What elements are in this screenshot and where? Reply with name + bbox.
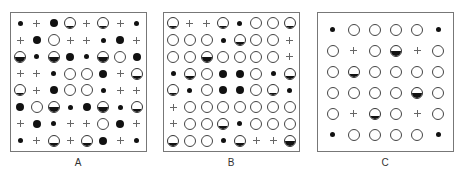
small-dot-icon	[118, 105, 123, 110]
bottom-band-circle-icon	[217, 17, 229, 29]
small-dot-icon	[330, 27, 335, 32]
grid-cell	[29, 99, 46, 116]
bottom-band-circle-icon	[284, 68, 296, 80]
grid-cell	[322, 103, 343, 124]
plus-icon	[253, 137, 260, 144]
grid-cell	[281, 32, 298, 49]
grid-cell	[128, 99, 145, 116]
plus-icon	[33, 87, 40, 94]
plus-icon	[270, 137, 277, 144]
grid-cell	[385, 124, 406, 145]
grid-cell	[29, 65, 46, 82]
small-dot-icon	[237, 121, 242, 126]
plus-icon	[170, 120, 177, 127]
open-circle-icon	[201, 118, 213, 130]
grid-cell	[12, 15, 29, 32]
open-circle-icon	[267, 34, 279, 46]
small-dot-icon	[51, 121, 56, 126]
grid-cell	[343, 19, 364, 40]
grid-cell	[232, 132, 249, 149]
grid-cell	[232, 116, 249, 133]
grid-cell	[79, 49, 96, 66]
small-dot-icon	[134, 138, 139, 143]
grid-cell	[165, 32, 182, 49]
grid-cell	[385, 103, 406, 124]
grid-cell	[198, 82, 215, 99]
open-circle-icon	[48, 34, 60, 46]
open-circle-icon	[411, 66, 423, 78]
symbol-grid-b	[164, 13, 299, 151]
grid-cell	[45, 65, 62, 82]
half-filled-circle-icon	[390, 45, 402, 57]
grid-cell	[198, 116, 215, 133]
small-dot-icon	[101, 38, 106, 43]
grid-cell	[198, 132, 215, 149]
large-dot-icon	[219, 86, 227, 94]
grid-cell	[232, 82, 249, 99]
grid-cell	[198, 32, 215, 49]
bottom-band-circle-icon	[64, 17, 76, 29]
grid-cell	[198, 15, 215, 32]
grid-cell	[112, 99, 129, 116]
half-filled-circle-icon	[97, 51, 109, 63]
grid-cell	[165, 116, 182, 133]
open-circle-icon	[390, 66, 402, 78]
plus-icon	[67, 137, 74, 144]
open-circle-icon	[432, 108, 444, 120]
grid-cell	[95, 116, 112, 133]
grid-cell	[29, 116, 46, 133]
grid-cell	[215, 99, 232, 116]
grid-cell	[343, 40, 364, 61]
grid-cell	[95, 49, 112, 66]
open-circle-icon	[114, 51, 126, 63]
small-dot-icon	[221, 138, 226, 143]
symbol-grid-a	[11, 13, 146, 151]
open-circle-icon	[369, 66, 381, 78]
open-circle-icon	[234, 101, 246, 113]
grid-cell	[165, 132, 182, 149]
grid-cell	[343, 124, 364, 145]
large-dot-icon	[33, 36, 41, 44]
open-circle-icon	[217, 51, 229, 63]
grid-cell	[165, 49, 182, 66]
grid-cell	[385, 61, 406, 82]
small-dot-icon	[68, 105, 73, 110]
plus-icon	[133, 37, 140, 44]
large-dot-icon	[116, 120, 124, 128]
grid-cell	[79, 116, 96, 133]
grid-cell	[428, 61, 449, 82]
grid-cell	[182, 15, 199, 32]
grid-cell	[12, 99, 29, 116]
grid-cell	[407, 82, 428, 103]
grid-cell	[265, 49, 282, 66]
grid-cell	[95, 132, 112, 149]
open-circle-icon	[201, 68, 213, 80]
bottom-band-circle-icon	[167, 84, 179, 96]
grid-cell	[45, 82, 62, 99]
grid-cell	[128, 116, 145, 133]
small-dot-icon	[134, 21, 139, 26]
grid-cell	[182, 65, 199, 82]
large-dot-icon	[236, 70, 244, 78]
grid-cell	[45, 116, 62, 133]
grid-cell	[364, 103, 385, 124]
grid-cell	[198, 99, 215, 116]
plus-icon	[33, 70, 40, 77]
large-dot-icon	[99, 137, 107, 145]
open-circle-icon	[411, 129, 423, 141]
plus-icon	[133, 87, 140, 94]
grid-cell	[62, 15, 79, 32]
grid-cell	[79, 32, 96, 49]
grid-cell	[281, 116, 298, 133]
grid-cell	[322, 61, 343, 82]
grid-cell	[182, 132, 199, 149]
grid-cell	[62, 99, 79, 116]
grid-cell	[248, 15, 265, 32]
grid-cell	[95, 15, 112, 32]
large-dot-icon	[236, 86, 244, 94]
grid-cell	[265, 132, 282, 149]
open-circle-icon	[201, 135, 213, 147]
grid-cell	[428, 19, 449, 40]
open-circle-icon	[184, 135, 196, 147]
plus-icon	[414, 47, 421, 54]
